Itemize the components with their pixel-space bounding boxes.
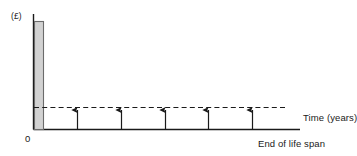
- recurring-cost-arrows: [78, 110, 253, 130]
- capital-cost-bar: [35, 22, 44, 130]
- end-of-life-span-label: End of life span: [258, 138, 325, 149]
- y-axis-label: (£): [11, 11, 22, 22]
- x-axis-title: Time (years): [303, 112, 357, 123]
- origin-label: 0: [25, 133, 30, 144]
